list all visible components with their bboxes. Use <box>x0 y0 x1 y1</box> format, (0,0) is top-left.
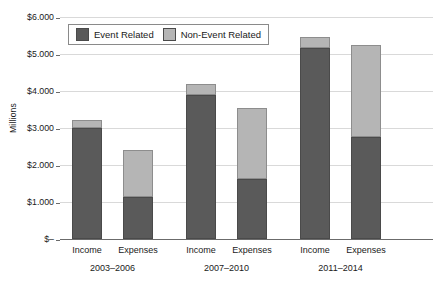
bar-income-0 <box>72 120 102 239</box>
bar-segment-event-related <box>237 179 267 239</box>
bar-income-2 <box>186 84 216 239</box>
y-axis-tick-label: $6.000 <box>2 12 54 22</box>
x-axis-line <box>60 239 433 240</box>
bar-segment-non-event-related <box>72 120 102 128</box>
bar-income-4 <box>300 37 330 239</box>
chart-container: Millions $–$1.000$2.000$3.000$4.000$5.00… <box>0 0 447 293</box>
x-axis-tick-label: Expenses <box>328 245 404 255</box>
legend-item-event-related: Event Related <box>76 28 154 41</box>
y-axis-tick-label: $5.000 <box>2 49 54 59</box>
y-axis-tick-label: $– <box>2 234 54 244</box>
bar-segment-non-event-related <box>123 150 153 197</box>
bar-segment-non-event-related <box>186 84 216 95</box>
legend-label-event-related: Event Related <box>94 29 154 40</box>
bar-segment-event-related <box>300 48 330 239</box>
bar-segment-non-event-related <box>237 108 267 179</box>
y-axis-tick-label: $1.000 <box>2 197 54 207</box>
gridline <box>60 17 433 18</box>
bar-segment-non-event-related <box>351 45 381 137</box>
bar-segment-event-related <box>123 197 153 239</box>
legend-swatch-non-event-related <box>163 28 176 41</box>
bar-expenses-1 <box>123 150 153 239</box>
bar-segment-non-event-related <box>300 37 330 48</box>
x-axis-group-label: 2011–2014 <box>271 263 411 273</box>
y-axis-tick-label: $3.000 <box>2 123 54 133</box>
y-axis-tick-mark <box>56 240 60 241</box>
bar-segment-event-related <box>351 137 381 239</box>
chart-legend: Event Related Non-Event Related <box>68 24 269 45</box>
legend-label-non-event-related: Non-Event Related <box>181 29 261 40</box>
legend-swatch-event-related <box>76 28 89 41</box>
bar-expenses-5 <box>351 45 381 239</box>
plot-area <box>60 18 433 240</box>
y-axis-tick-label: $2.000 <box>2 160 54 170</box>
legend-item-non-event-related: Non-Event Related <box>163 28 261 41</box>
bar-expenses-3 <box>237 108 267 239</box>
bar-segment-event-related <box>72 128 102 239</box>
bar-segment-event-related <box>186 95 216 239</box>
y-axis-tick-label: $4.000 <box>2 86 54 96</box>
